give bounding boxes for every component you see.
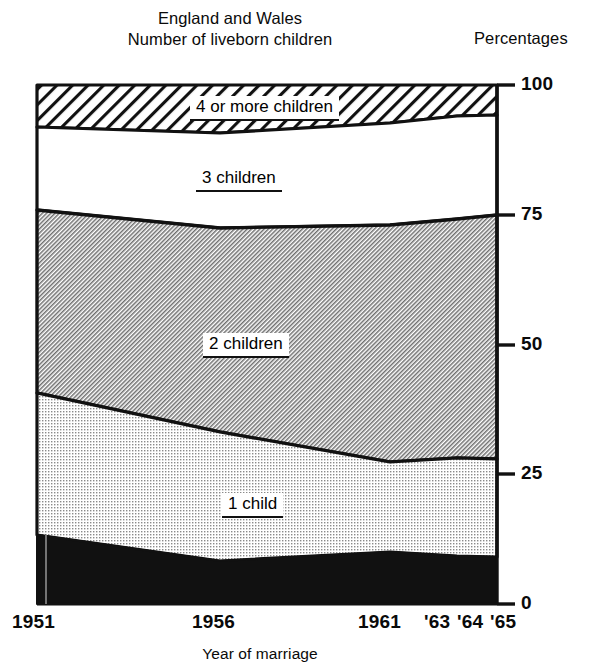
x-axis-title: Year of marriage xyxy=(0,645,520,663)
x-tick-label-65: '65 xyxy=(490,612,516,631)
y-tick-label-50: 50 xyxy=(521,334,543,353)
chart-root: England and Wales Number of liveborn chi… xyxy=(0,0,597,669)
y-tick-label-0: 0 xyxy=(521,593,532,612)
x-tick-label-64: '64 xyxy=(457,612,483,631)
x-tick-label-63: '63 xyxy=(424,612,450,631)
band-label-one-child: 1 child xyxy=(222,493,283,518)
x-tick-label-1961: 1961 xyxy=(358,612,401,631)
band-label-four-or-more: 4 or more children xyxy=(190,96,339,121)
y-tick-label-100: 100 xyxy=(521,74,553,93)
band-label-three-children: 3 children xyxy=(196,167,282,192)
y-tick-label-75: 75 xyxy=(521,204,543,223)
x-tick-label-1956: 1956 xyxy=(192,612,235,631)
band-label-two-children: 2 children xyxy=(203,333,289,358)
y-tick-label-25: 25 xyxy=(521,463,543,482)
x-tick-label-1951: 1951 xyxy=(12,612,55,631)
